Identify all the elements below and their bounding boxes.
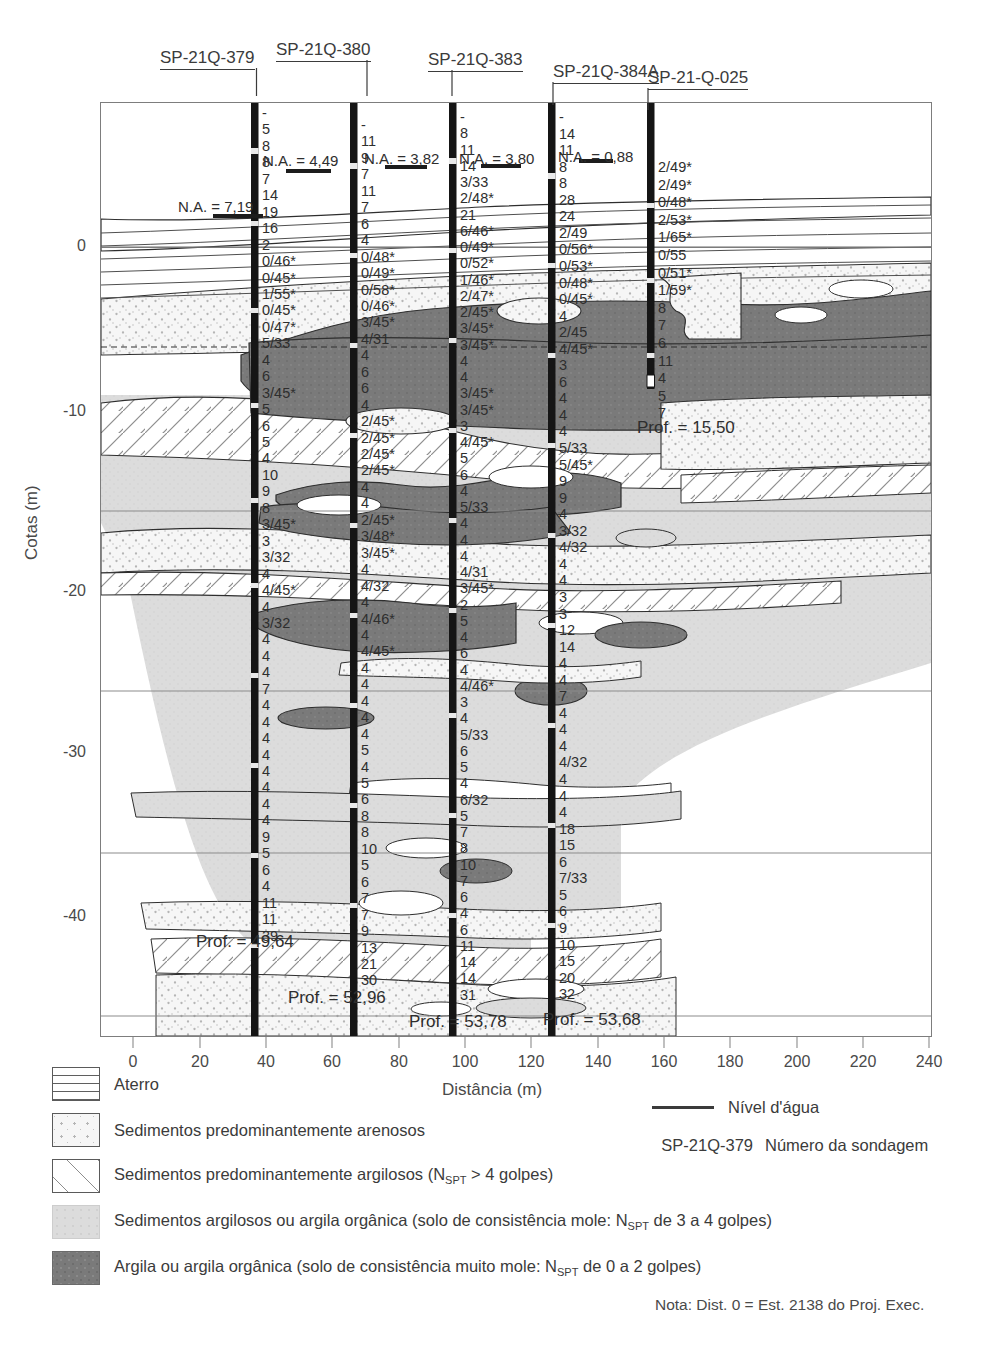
spt-value: 11 bbox=[361, 184, 376, 199]
depth-label-384a: Prof. = 53,68 bbox=[543, 1010, 641, 1030]
spt-value: 10 bbox=[559, 938, 575, 953]
legend-label-argila-mole-sub: SPT bbox=[628, 1221, 649, 1233]
legend-label-aterro: Aterro bbox=[114, 1075, 159, 1094]
legend-swatch-aterro bbox=[52, 1067, 100, 1101]
spt-value: 4/31 bbox=[361, 332, 389, 347]
x-tick-100: 100 bbox=[445, 1053, 485, 1071]
spt-value: 7 bbox=[262, 172, 270, 187]
spt-value: 18 bbox=[559, 822, 575, 837]
legend-item-argila-muito-mole: Argila ou argila orgânica (solo de consi… bbox=[52, 1251, 701, 1285]
spt-value: 4 bbox=[559, 557, 567, 572]
spt-value: 6/32 bbox=[460, 793, 488, 808]
legend-label-argila-dura-p1: Sedimentos predominantemente argilosos (… bbox=[114, 1165, 445, 1183]
spt-value: 4 bbox=[559, 391, 567, 406]
spt-value: 4 bbox=[559, 772, 567, 787]
spt-value: 2/53* bbox=[658, 213, 692, 228]
spt-value: 0/48* bbox=[559, 276, 593, 291]
spt-value: 0/46* bbox=[262, 254, 296, 269]
spt-value: 4 bbox=[361, 727, 369, 742]
spt-value: 2/45* bbox=[361, 463, 395, 478]
spt-value: 0/47* bbox=[262, 320, 296, 335]
depth-label-383: Prof. = 53,78 bbox=[409, 1012, 507, 1032]
spt-value: 5 bbox=[460, 809, 468, 824]
legend-label-argila-muito-mole: Argila ou argila orgânica (solo de consi… bbox=[114, 1257, 701, 1278]
spt-value: - bbox=[559, 110, 564, 125]
water-level-symbol bbox=[652, 1106, 714, 1110]
spt-value: 4 bbox=[460, 370, 468, 385]
spt-value: 3/45* bbox=[361, 315, 395, 330]
spt-value: 9 bbox=[559, 474, 567, 489]
legend-label-numero-sondagem: Número da sondagem bbox=[765, 1136, 928, 1155]
depth-label-025: Prof. = 15,50 bbox=[637, 418, 735, 438]
spt-value: 15 bbox=[559, 838, 575, 853]
spt-value: 6 bbox=[460, 923, 468, 938]
spt-value: 4/32 bbox=[559, 540, 587, 555]
spt-value: 28 bbox=[559, 193, 575, 208]
spt-value: 0/49* bbox=[361, 266, 395, 281]
water-level-label-379: N.A. = 4,49 bbox=[263, 152, 338, 169]
spt-value: 21 bbox=[361, 957, 377, 972]
spt-value: 11 bbox=[460, 939, 475, 954]
legend-label-argila-dura-p2: > 4 golpes) bbox=[467, 1165, 554, 1183]
spt-value: 9 bbox=[262, 830, 270, 845]
spt-value: 7 bbox=[361, 908, 369, 923]
spt-value: 14 bbox=[559, 127, 575, 142]
spt-value: 21 bbox=[460, 208, 476, 223]
spt-value: 4/46* bbox=[460, 679, 494, 694]
water-level-label-379-secondary: N.A. = 7,19 bbox=[178, 198, 253, 215]
spt-value: 2/49* bbox=[658, 160, 692, 175]
x-tick-20: 20 bbox=[180, 1053, 220, 1071]
spt-value: 3/45* bbox=[262, 386, 296, 401]
spt-value: 8 bbox=[460, 841, 468, 856]
spt-value: 3 bbox=[262, 534, 270, 549]
spt-value: 0/49* bbox=[460, 240, 494, 255]
spt-value: 3/45* bbox=[460, 403, 494, 418]
legend-label-argila-dura: Sedimentos predominantemente argilosos (… bbox=[114, 1165, 553, 1186]
x-tick-180: 180 bbox=[710, 1053, 750, 1071]
spt-value: 0/45* bbox=[262, 303, 296, 318]
legend-label-nivel-agua: Nível d'água bbox=[728, 1098, 819, 1117]
spt-value: 1/46* bbox=[460, 273, 494, 288]
spt-value: 4 bbox=[460, 533, 468, 548]
spt-value: 4 bbox=[361, 710, 369, 725]
spt-value: 2 bbox=[262, 238, 270, 253]
spt-value: - bbox=[361, 118, 366, 133]
spt-value: 24 bbox=[559, 209, 575, 224]
x-tick-60: 60 bbox=[312, 1053, 352, 1071]
x-tick-120: 120 bbox=[511, 1053, 551, 1071]
spt-value: 7 bbox=[658, 318, 666, 333]
spt-value: 4 bbox=[460, 776, 468, 791]
spt-value: 5 bbox=[460, 614, 468, 629]
spt-value: 6 bbox=[658, 336, 666, 351]
spt-value: 3 bbox=[460, 419, 468, 434]
spt-value: 4/45* bbox=[559, 342, 593, 357]
spt-value: 31 bbox=[460, 988, 476, 1003]
spt-value: 6 bbox=[559, 375, 567, 390]
spt-value: 4 bbox=[460, 906, 468, 921]
spt-value: 8 bbox=[361, 809, 369, 824]
spt-value: 0/46* bbox=[361, 299, 395, 314]
spt-value: 3 bbox=[559, 590, 567, 605]
spt-value: 20 bbox=[559, 971, 575, 986]
spt-value: 4 bbox=[460, 630, 468, 645]
spt-value: 4 bbox=[262, 748, 270, 763]
spt-value: 11 bbox=[262, 912, 277, 927]
spt-value: 0/56* bbox=[559, 242, 593, 257]
spt-value: 5 bbox=[658, 389, 666, 404]
spt-value: 2/45* bbox=[361, 513, 395, 528]
legend-item-aterro: Aterro bbox=[52, 1067, 159, 1101]
legend-item-argila-mole: Sedimentos argilosos ou argila orgânica … bbox=[52, 1205, 772, 1239]
spt-value: 0/48* bbox=[658, 195, 692, 210]
legend-swatch-argila-muito-mole bbox=[52, 1251, 100, 1285]
spt-value: 4 bbox=[262, 698, 270, 713]
spt-value: 3/45* bbox=[361, 546, 395, 561]
spt-value: 5 bbox=[559, 888, 567, 903]
spt-value: 7 bbox=[460, 825, 468, 840]
spt-value: 12 bbox=[559, 623, 575, 638]
spt-value: 19 bbox=[262, 205, 278, 220]
spt-value: 14 bbox=[460, 159, 476, 174]
spt-value: 4 bbox=[262, 813, 270, 828]
spt-value: 9 bbox=[262, 484, 270, 499]
spt-value: 2/45* bbox=[460, 305, 494, 320]
spt-value: 4/45* bbox=[460, 435, 494, 450]
